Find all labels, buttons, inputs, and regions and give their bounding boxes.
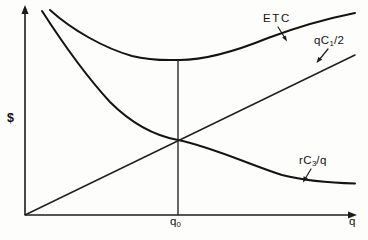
- q0-subscript: 0: [176, 220, 180, 229]
- label-ordering-cost: rC3/q: [299, 155, 327, 167]
- label-holding-cost: qC1/2: [314, 35, 344, 47]
- x-axis-tick-label-q0: q0: [170, 216, 181, 228]
- ordering-cost-tail: /q: [316, 154, 326, 166]
- ordering-cost-main: rC: [299, 154, 312, 166]
- plot-canvas: [0, 0, 368, 240]
- holding-cost-leader-line: [317, 49, 329, 63]
- y-axis-label: $: [7, 112, 14, 125]
- curve-etc: [50, 10, 355, 60]
- label-etc: ETC: [263, 13, 291, 25]
- holding-cost-tail: /2: [334, 34, 344, 46]
- ordering-cost-subscript: 3: [312, 159, 316, 168]
- x-axis: [25, 211, 357, 218]
- line-holding-cost: [25, 55, 355, 215]
- eoq-cost-curve-figure: ETC qC1/2 rC3/q $ q q0: [0, 0, 368, 240]
- holding-cost-subscript: 1: [330, 39, 334, 48]
- holding-cost-main: qC: [314, 34, 330, 46]
- y-axis: [21, 5, 28, 215]
- x-axis-label: q: [349, 216, 355, 228]
